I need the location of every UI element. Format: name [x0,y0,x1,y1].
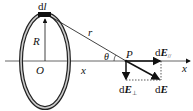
label-distance-r: r [88,26,93,38]
field-total-arrow [126,61,159,79]
label-radius: R [32,35,40,47]
angle-arc [114,55,116,61]
distance-line-r [48,15,126,61]
label-field-perp: dE⊥ [119,83,137,96]
ring-field-diagram: dl R r O x θ P dE// x dE⊥ dE [0,0,193,111]
label-field-total: dE [155,83,168,95]
label-x-distance: x [80,64,86,76]
label-origin: O [36,64,44,76]
label-field-parallel: dE// [155,46,172,59]
label-theta: θ [104,51,109,62]
label-dl: dl [38,0,47,12]
label-point-p: P [125,48,133,60]
charge-element-dl [38,12,51,17]
label-axis-x: x [181,62,187,74]
